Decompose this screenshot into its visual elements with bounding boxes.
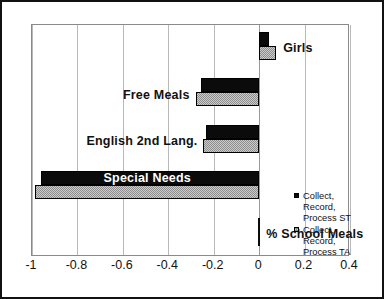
legend-label-st-line1: Collect,: [303, 191, 378, 202]
bar-ta[interactable]: [258, 232, 260, 246]
bar-ta[interactable]: [35, 185, 259, 199]
legend-label-ta: Collect, Record, Process TA: [303, 225, 378, 257]
legend-label-st-line3: Process ST: [303, 213, 378, 224]
bar-st[interactable]: [259, 32, 269, 46]
category-label: Free Meals: [123, 89, 190, 102]
bar-st[interactable]: [201, 78, 259, 92]
legend-label-st: Collect, Record, Process ST: [303, 191, 378, 223]
chart-frame: GirlsFree MealsEnglish 2nd Lang.Special …: [0, 0, 384, 299]
x-tick-label: -0.4: [157, 259, 179, 272]
bar-st[interactable]: [258, 218, 260, 232]
chart-legend: Collect, Record, Process ST Collect, Rec…: [294, 191, 378, 260]
x-tick-label: -1: [25, 259, 36, 272]
legend-swatch-ta-icon: [294, 227, 299, 232]
category-label: Girls: [283, 42, 313, 55]
x-tick-label: -0.2: [202, 259, 224, 272]
legend-label-ta-line1: Collect,: [303, 225, 378, 236]
x-tick-label: -0.6: [111, 259, 133, 272]
legend-label-ta-line2: Record,: [303, 236, 378, 247]
legend-swatch-st-icon: [294, 193, 299, 198]
x-tick-label: -0.8: [66, 259, 88, 272]
bar-st[interactable]: [206, 125, 259, 139]
bar-ta[interactable]: [196, 92, 260, 106]
bar-ta[interactable]: [203, 139, 259, 153]
legend-label-ta-line3: Process TA: [303, 247, 378, 258]
category-label: Special Needs: [35, 172, 259, 185]
legend-label-st-line2: Record,: [303, 202, 378, 213]
x-tick-label: 0.2: [295, 259, 312, 272]
bar-row: [32, 71, 348, 117]
legend-item-st[interactable]: Collect, Record, Process ST: [294, 191, 378, 223]
x-axis-tick-labels: -1-0.8-0.6-0.4-0.200.20.4: [31, 259, 349, 279]
bar-ta[interactable]: [259, 46, 276, 60]
category-label: English 2nd Lang.: [86, 135, 197, 148]
x-tick-label: 0: [255, 259, 262, 272]
x-tick-label: 0.4: [340, 259, 357, 272]
plot-area: GirlsFree MealsEnglish 2nd Lang.Special …: [31, 24, 349, 256]
legend-item-ta[interactable]: Collect, Record, Process TA: [294, 225, 378, 257]
